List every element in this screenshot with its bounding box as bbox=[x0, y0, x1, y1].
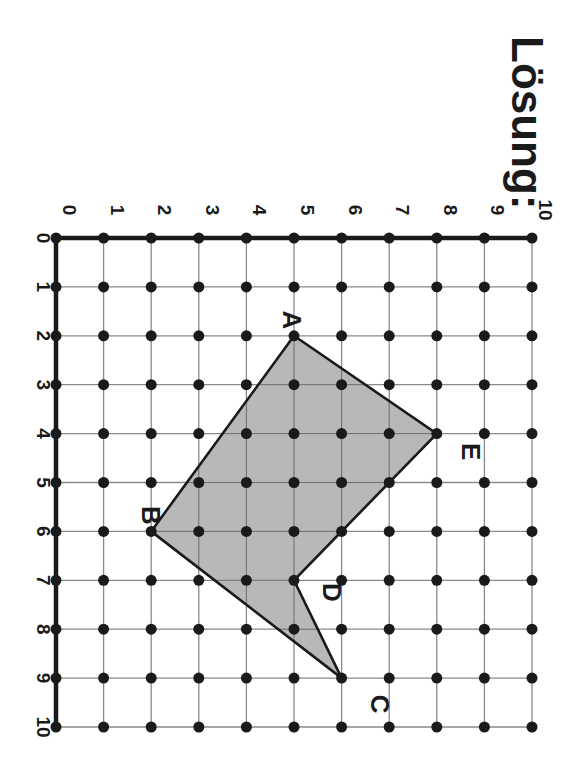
grid-dot bbox=[336, 281, 347, 292]
grid-dot bbox=[241, 673, 252, 684]
x-tick-label: 10 bbox=[535, 199, 556, 220]
grid-dot bbox=[527, 233, 538, 244]
vertex-label-d: D bbox=[317, 583, 347, 602]
y-tick-label: 0 bbox=[33, 233, 54, 244]
grid-dot bbox=[527, 281, 538, 292]
grid-dot bbox=[431, 624, 442, 635]
vertex-label-a: A bbox=[277, 310, 307, 329]
y-tick-label: 2 bbox=[33, 331, 54, 342]
grid-dot bbox=[146, 526, 157, 537]
x-tick-label: 8 bbox=[440, 205, 461, 216]
grid-dot bbox=[193, 330, 204, 341]
grid-dot bbox=[98, 624, 109, 635]
grid-dot bbox=[289, 330, 300, 341]
grid-dot bbox=[336, 379, 347, 390]
grid-dot bbox=[527, 330, 538, 341]
grid-dot bbox=[241, 379, 252, 390]
grid-dot bbox=[384, 281, 395, 292]
grid-dot bbox=[98, 281, 109, 292]
grid-dot bbox=[527, 624, 538, 635]
x-axis-tick-labels: 012345678910 bbox=[59, 199, 556, 220]
grid-dot bbox=[479, 673, 490, 684]
y-tick-label: 9 bbox=[33, 673, 54, 684]
grid-dot bbox=[527, 673, 538, 684]
grid-dot bbox=[98, 575, 109, 586]
grid-dot bbox=[241, 526, 252, 537]
grid-dot bbox=[479, 428, 490, 439]
grid-dot bbox=[431, 428, 442, 439]
x-tick-label: 7 bbox=[392, 205, 413, 216]
grid-dot bbox=[527, 379, 538, 390]
grid-dot bbox=[384, 575, 395, 586]
grid-dot bbox=[336, 477, 347, 488]
grid-dot bbox=[241, 428, 252, 439]
grid-dot bbox=[527, 575, 538, 586]
vertex-label-b: B bbox=[136, 506, 166, 525]
y-tick-label: 4 bbox=[33, 428, 54, 439]
grid-dot bbox=[146, 673, 157, 684]
coordinate-diagram: Lösung: 012345678910 012345678910 AEDCB bbox=[0, 0, 565, 772]
x-tick-label: 4 bbox=[249, 205, 270, 216]
vertex-label-e: E bbox=[456, 443, 486, 460]
grid-dot bbox=[289, 624, 300, 635]
grid-dot bbox=[479, 379, 490, 390]
grid-dot bbox=[336, 330, 347, 341]
grid-dot bbox=[193, 281, 204, 292]
y-axis-tick-labels: 012345678910 bbox=[33, 233, 54, 738]
grid-dot bbox=[527, 526, 538, 537]
grid-dot bbox=[289, 281, 300, 292]
grid-dot bbox=[193, 233, 204, 244]
grid-dot bbox=[193, 624, 204, 635]
grid-dot bbox=[193, 526, 204, 537]
grid-dot bbox=[98, 379, 109, 390]
grid-dot bbox=[289, 526, 300, 537]
grid-dot bbox=[384, 673, 395, 684]
x-tick-label: 0 bbox=[59, 205, 80, 216]
grid-dot bbox=[431, 575, 442, 586]
grid-dot bbox=[431, 673, 442, 684]
y-tick-label: 1 bbox=[33, 282, 54, 293]
grid-dot bbox=[98, 330, 109, 341]
grid-dot bbox=[98, 477, 109, 488]
grid-dot bbox=[289, 428, 300, 439]
grid-dot bbox=[193, 575, 204, 586]
grid-dot bbox=[479, 330, 490, 341]
x-tick-label: 9 bbox=[487, 205, 508, 216]
grid-dot bbox=[431, 722, 442, 733]
grid-dot bbox=[146, 624, 157, 635]
grid-dot bbox=[146, 330, 157, 341]
grid-dot bbox=[241, 477, 252, 488]
grid-dot bbox=[479, 624, 490, 635]
grid-dot bbox=[431, 526, 442, 537]
grid-dot bbox=[336, 624, 347, 635]
grid-dot bbox=[384, 722, 395, 733]
grid-dot bbox=[241, 281, 252, 292]
grid-dot bbox=[146, 428, 157, 439]
grid-dot bbox=[193, 428, 204, 439]
grid-dot bbox=[336, 233, 347, 244]
grid-dot bbox=[431, 233, 442, 244]
grid-dot bbox=[146, 575, 157, 586]
grid-dot bbox=[289, 575, 300, 586]
grid-dot bbox=[384, 379, 395, 390]
grid-dot bbox=[289, 379, 300, 390]
grid-dot bbox=[336, 428, 347, 439]
y-tick-label: 10 bbox=[33, 716, 54, 737]
vertex-label-c: C bbox=[365, 695, 395, 714]
title-text: Lösung: bbox=[503, 36, 552, 210]
y-tick-label: 7 bbox=[33, 575, 54, 586]
grid-dot bbox=[98, 428, 109, 439]
y-tick-label: 5 bbox=[33, 477, 54, 488]
grid-dot bbox=[289, 477, 300, 488]
y-tick-label: 8 bbox=[33, 624, 54, 635]
grid-dot bbox=[479, 233, 490, 244]
y-tick-label: 6 bbox=[33, 526, 54, 537]
grid-dot bbox=[527, 428, 538, 439]
grid-dot bbox=[431, 330, 442, 341]
grid-dot bbox=[241, 722, 252, 733]
grid-dot bbox=[193, 379, 204, 390]
grid-dot bbox=[241, 330, 252, 341]
grid-dot bbox=[146, 722, 157, 733]
grid-dot bbox=[146, 477, 157, 488]
grid-dot bbox=[193, 477, 204, 488]
